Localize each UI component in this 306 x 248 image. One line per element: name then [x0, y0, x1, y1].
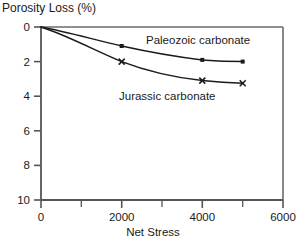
x-tick-label-2000: 2000 — [109, 211, 135, 223]
y-tick-label-8: 8 — [24, 159, 30, 171]
y-tick-label-0: 0 — [24, 21, 30, 33]
y-tick-label-10: 10 — [17, 194, 30, 206]
chart-canvas: 0 2 4 6 8 10 0 2000 4000 6000 — [0, 0, 306, 248]
data-point-paleozoic-2000 — [120, 44, 124, 48]
x-tick-label-4000: 4000 — [190, 211, 216, 223]
x-tick-label-0: 0 — [38, 211, 44, 223]
porosity-loss-chart: Porosity Loss (%) 0 2 4 6 8 10 — [0, 0, 306, 248]
x-tick-marks — [41, 200, 283, 208]
y-tick-marks — [34, 27, 41, 200]
data-point-paleozoic-4000 — [200, 58, 204, 62]
series-annotation-paleozoic: Paleozoic carbonate — [146, 34, 250, 46]
axes-frame — [41, 27, 283, 200]
x-tick-labels: 0 2000 4000 6000 — [38, 211, 296, 223]
y-tick-labels: 0 2 4 6 8 10 — [17, 21, 30, 206]
y-tick-label-4: 4 — [24, 90, 31, 102]
x-tick-label-6000: 6000 — [270, 211, 296, 223]
data-point-paleozoic-5000 — [241, 60, 245, 64]
series-annotation-jurassic: Jurassic carbonate — [119, 90, 216, 102]
y-tick-label-6: 6 — [24, 125, 30, 137]
x-axis-title: Net Stress — [0, 226, 306, 239]
y-tick-label-2: 2 — [24, 56, 30, 68]
